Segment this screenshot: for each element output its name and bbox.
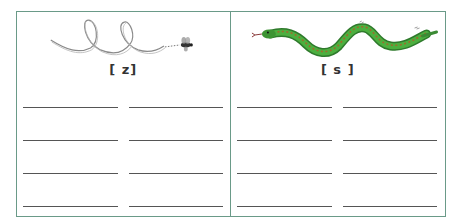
writing-line[interactable] bbox=[237, 140, 332, 141]
panel-z: [ z] bbox=[17, 12, 231, 216]
writing-line[interactable] bbox=[343, 107, 437, 108]
writing-line[interactable] bbox=[129, 107, 223, 108]
writing-line[interactable] bbox=[237, 107, 332, 108]
snake-icon bbox=[231, 12, 446, 62]
writing-line[interactable] bbox=[23, 173, 118, 174]
writing-line[interactable] bbox=[343, 173, 437, 174]
fly-loop-icon bbox=[17, 12, 230, 62]
phonics-worksheet: [ z] [ s ] bbox=[16, 11, 446, 217]
writing-line[interactable] bbox=[129, 206, 223, 207]
writing-line[interactable] bbox=[129, 173, 223, 174]
writing-line[interactable] bbox=[343, 206, 437, 207]
writing-line[interactable] bbox=[237, 173, 332, 174]
panel-s: [ s ] bbox=[231, 12, 446, 216]
writing-line[interactable] bbox=[237, 206, 332, 207]
writing-line[interactable] bbox=[129, 140, 223, 141]
writing-line[interactable] bbox=[23, 107, 118, 108]
phoneme-label-z: [ z] bbox=[17, 62, 230, 77]
writing-line[interactable] bbox=[23, 206, 118, 207]
writing-line[interactable] bbox=[343, 140, 437, 141]
phoneme-label-s: [ s ] bbox=[231, 62, 446, 77]
writing-line[interactable] bbox=[23, 140, 118, 141]
